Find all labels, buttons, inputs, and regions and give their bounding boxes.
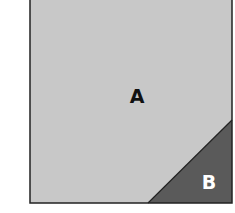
diagram: A B [0, 0, 235, 213]
label-a: A [130, 85, 145, 107]
label-b: B [202, 171, 216, 193]
